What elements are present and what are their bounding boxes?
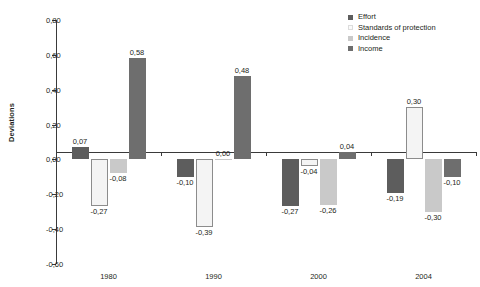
bar-chart: Deviations 0,800,600,400,200,00-0,20-0,4… xyxy=(0,0,480,287)
bar[interactable] xyxy=(301,159,318,166)
x-axis-category-label: 1980 xyxy=(100,272,117,281)
bar-value-label: 0,00 xyxy=(216,149,231,158)
x-axis-category-label: 1990 xyxy=(205,272,222,281)
bar-value-label: -0,39 xyxy=(195,228,212,237)
bar-value-label: 0,07 xyxy=(73,137,88,146)
y-axis-tick-label: -0,40 xyxy=(46,225,48,234)
legend-swatch-icon xyxy=(348,15,353,20)
x-axis-tick xyxy=(371,152,372,156)
legend-label: Income xyxy=(358,44,383,55)
legend-label: Standards of protection xyxy=(358,23,436,34)
legend-item-effort[interactable]: Effort xyxy=(348,12,436,23)
y-axis-tick-label: 0,80 xyxy=(46,16,48,25)
bar[interactable] xyxy=(406,107,423,159)
legend-label: Effort xyxy=(358,12,376,23)
bar[interactable] xyxy=(91,159,108,206)
y-axis-tick-label: 0,20 xyxy=(46,120,48,129)
bar[interactable] xyxy=(320,159,337,204)
bar-value-label: 0,30 xyxy=(407,97,422,106)
x-axis-tick xyxy=(266,152,267,156)
bar[interactable] xyxy=(444,159,461,176)
bar[interactable] xyxy=(282,159,299,206)
bar[interactable] xyxy=(196,159,213,227)
legend-swatch-icon xyxy=(348,46,353,51)
legend-swatch-icon xyxy=(348,25,353,30)
y-axis-tick-label: -0,60 xyxy=(46,260,48,269)
bar[interactable] xyxy=(339,152,356,159)
legend-item-standards-of-protection[interactable]: Standards of protection xyxy=(348,23,436,34)
bar[interactable] xyxy=(129,58,146,159)
bar-value-label: -0,10 xyxy=(443,178,460,187)
plot-area: 0,800,600,400,200,00-0,20-0,40-0,60 0,07… xyxy=(56,20,476,264)
bar-value-label: 0,58 xyxy=(130,48,145,57)
bar[interactable] xyxy=(215,159,232,160)
legend-item-income[interactable]: Income xyxy=(348,44,436,55)
legend-label: Incidence xyxy=(358,33,390,44)
x-axis-tick xyxy=(56,152,57,156)
x-axis-category-label: 2004 xyxy=(415,272,432,281)
bar-value-label: -0,10 xyxy=(176,178,193,187)
x-axis-tick xyxy=(161,152,162,156)
bar-value-label: -0,04 xyxy=(300,167,317,176)
bar[interactable] xyxy=(72,147,89,159)
y-axis-tick-label: -0,20 xyxy=(46,190,48,199)
bar-value-label: -0,19 xyxy=(386,194,403,203)
bar[interactable] xyxy=(387,159,404,192)
bar[interactable] xyxy=(177,159,194,176)
y-axis-tick-label: 0,60 xyxy=(46,50,48,59)
x-axis-tick xyxy=(476,152,477,156)
bar-value-label: -0,30 xyxy=(424,213,441,222)
legend: Effort Standards of protection Incidence… xyxy=(348,12,436,54)
bar[interactable] xyxy=(110,159,127,173)
bar[interactable] xyxy=(234,76,251,160)
bar-value-label: -0,08 xyxy=(109,174,126,183)
legend-item-incidence[interactable]: Incidence xyxy=(348,33,436,44)
bar-value-label: 0,48 xyxy=(235,66,250,75)
legend-swatch-icon xyxy=(348,36,353,41)
y-axis-tick-label: 0,00 xyxy=(46,155,48,164)
bar-value-label: -0,26 xyxy=(319,206,336,215)
y-axis-tick-label: 0,40 xyxy=(46,85,48,94)
y-axis-title: Deviations xyxy=(7,88,16,158)
bar-value-label: -0,27 xyxy=(281,207,298,216)
bar-value-label: 0,04 xyxy=(340,142,355,151)
bar[interactable] xyxy=(425,159,442,211)
bar-value-label: -0,27 xyxy=(90,207,107,216)
x-axis-category-label: 2000 xyxy=(310,272,327,281)
